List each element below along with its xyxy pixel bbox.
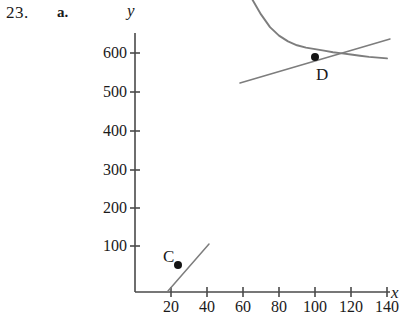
y-tick-label: 100 [79, 238, 127, 254]
figure-container: 23. a. y x 600500400300200100 2040608010… [0, 0, 409, 330]
curve-group [135, 0, 387, 58]
x-tick-label: 20 [153, 299, 189, 315]
x-tick-label: 40 [189, 299, 225, 315]
x-tick-label: 140 [369, 299, 405, 315]
plot-canvas [0, 0, 409, 330]
y-tick-label: 600 [79, 45, 127, 61]
y-tick-label: 300 [79, 162, 127, 178]
x-tick-label: 120 [333, 299, 369, 315]
y-tick-label: 400 [79, 123, 127, 139]
y-tick-label: 200 [79, 200, 127, 216]
data-points-group [174, 53, 319, 269]
x-tick-label: 80 [261, 299, 297, 315]
point-label-d: D [316, 66, 328, 83]
y-tick-label: 500 [79, 84, 127, 100]
x-tick-label: 100 [297, 299, 333, 315]
x-tick-label: 60 [225, 299, 261, 315]
tangent-lines-group [168, 39, 390, 291]
point-label-c: C [163, 248, 174, 265]
